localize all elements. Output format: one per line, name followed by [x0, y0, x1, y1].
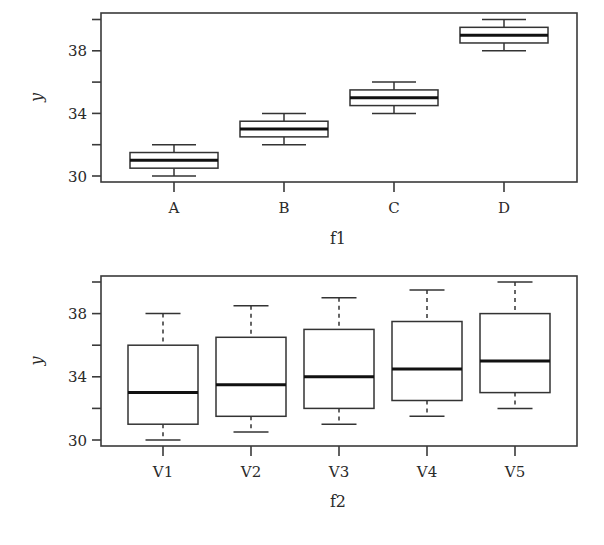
- x-tick-label: V5: [504, 463, 525, 481]
- x-tick-label: V3: [328, 463, 349, 481]
- x-tick-label: D: [498, 199, 510, 217]
- y-axis-label: y: [27, 92, 46, 103]
- box-V1: [128, 314, 198, 440]
- box-C: [350, 82, 438, 113]
- y-tick-label: 38: [68, 305, 87, 323]
- x-axis-label: f1: [330, 229, 346, 248]
- box-V2: [216, 306, 286, 432]
- x-tick-label: B: [278, 199, 289, 217]
- iqr-box: [392, 322, 462, 401]
- box-B: [240, 113, 328, 144]
- x-axis-label: f2: [330, 492, 346, 511]
- iqr-box: [304, 329, 374, 408]
- boxplot-panel-f2: 303438yV1V2V3V4V5f2: [27, 276, 577, 511]
- y-tick-label: 34: [68, 105, 87, 123]
- box-V3: [304, 298, 374, 424]
- x-tick-label: V4: [416, 463, 437, 481]
- iqr-box: [128, 345, 198, 424]
- y-tick-label: 38: [68, 42, 87, 60]
- boxplot-figure: 303438yABCDf1 303438yV1V2V3V4V5f2: [0, 0, 604, 545]
- y-axis-label: y: [27, 356, 46, 367]
- box-V5: [480, 282, 550, 408]
- x-tick-label: C: [388, 199, 399, 217]
- box-D: [460, 20, 548, 51]
- box-A: [130, 145, 218, 176]
- boxplot-panel-f1: 303438yABCDf1: [27, 13, 577, 248]
- y-tick-label: 34: [68, 368, 87, 386]
- iqr-box: [480, 314, 550, 393]
- y-tick-label: 30: [68, 168, 87, 186]
- x-tick-label: V1: [152, 463, 173, 481]
- x-tick-label: V2: [240, 463, 261, 481]
- iqr-box: [216, 337, 286, 416]
- y-tick-label: 30: [68, 432, 87, 450]
- box-V4: [392, 290, 462, 416]
- x-tick-label: A: [168, 199, 180, 217]
